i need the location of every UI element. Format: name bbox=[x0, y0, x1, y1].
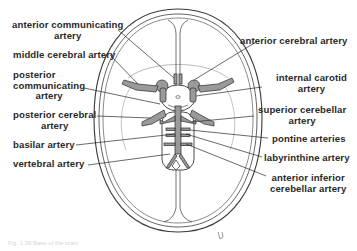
label-line: internal carotid bbox=[276, 73, 347, 84]
label-line: artery bbox=[258, 116, 346, 127]
label-line: artery bbox=[12, 31, 123, 42]
label-line: anterior inferior bbox=[270, 173, 346, 184]
anatomy-diagram: anterior communicating artery middle cer… bbox=[0, 0, 357, 251]
label-line: vertebral artery bbox=[13, 159, 84, 170]
label-anterior-inferior-cerebellar-artery: anterior inferior cerebellar artery bbox=[270, 173, 346, 194]
label-basilar-artery: basilar artery bbox=[13, 140, 75, 151]
label-superior-cerebellar-artery: superior cerebellar artery bbox=[258, 105, 346, 126]
label-line: labyrinthine artery bbox=[264, 153, 350, 164]
label-labyrinthine-artery: labyrinthine artery bbox=[264, 153, 350, 164]
label-line: anterior communicating bbox=[12, 20, 123, 31]
figure-caption: Fig. 1.39 Base of the brain bbox=[8, 240, 78, 246]
label-internal-carotid-artery: internal carotid artery bbox=[276, 73, 347, 94]
label-line: posterior cerebral bbox=[13, 110, 96, 121]
label-line: artery bbox=[13, 91, 85, 102]
label-posterior-cerebral-artery: posterior cerebral artery bbox=[13, 110, 96, 131]
label-line: artery bbox=[13, 121, 96, 132]
label-line: superior cerebellar bbox=[258, 105, 346, 116]
label-line: anterior cerebral artery bbox=[240, 36, 347, 47]
label-line: middle cerebral artery bbox=[13, 50, 115, 61]
label-line: artery bbox=[276, 84, 347, 95]
label-anterior-communicating-artery: anterior communicating artery bbox=[12, 20, 123, 41]
label-pontine-arteries: pontine arteries bbox=[272, 134, 346, 145]
label-anterior-cerebral-artery: anterior cerebral artery bbox=[240, 36, 347, 47]
artist-signature-icon bbox=[218, 232, 223, 239]
label-line: basilar artery bbox=[13, 140, 75, 151]
label-line: posterior bbox=[13, 70, 85, 81]
label-middle-cerebral-artery: middle cerebral artery bbox=[13, 50, 115, 61]
label-line: pontine arteries bbox=[272, 134, 346, 145]
label-line: cerebellar artery bbox=[270, 184, 346, 195]
label-vertebral-artery: vertebral artery bbox=[13, 159, 84, 170]
label-posterior-communicating-artery: posterior communicating artery bbox=[13, 70, 85, 102]
